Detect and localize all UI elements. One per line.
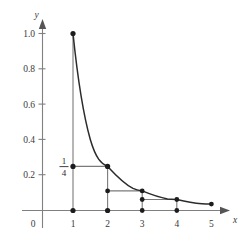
riemann-rectangles — [73, 166, 177, 210]
y-tick-labels: 1.0 0.8 0.6 0.4 0.2 — [23, 29, 35, 180]
y-tick-label-0.8: 0.8 — [23, 64, 35, 74]
x-tick-label-0: 0 — [31, 219, 36, 229]
y-tick-label-0.6: 0.6 — [23, 100, 35, 110]
axis-point-x4 — [174, 208, 179, 213]
x-axis-label: x — [232, 215, 238, 225]
curve-points — [70, 31, 213, 207]
point-x4-y0.0625 — [174, 197, 179, 202]
point-x2-y0.25 — [105, 164, 110, 169]
axis-point-x2 — [105, 208, 110, 213]
y-tick-label-0.2: 0.2 — [23, 170, 35, 180]
y-axis-arrow-icon — [39, 19, 46, 29]
axis-group — [22, 19, 230, 228]
curve-one-over-x-squared — [73, 34, 211, 205]
axis-point-x1 — [70, 208, 75, 213]
y-tick-label-0.4: 0.4 — [23, 135, 35, 145]
x-axis-arrow-icon — [220, 207, 230, 214]
y-tick-label-1.0: 1.0 — [23, 29, 35, 39]
chart-figure: 1.0 0.8 0.6 0.4 0.2 0 1 2 3 4 5 y x — [0, 0, 241, 243]
point-x3-y0.111 — [140, 189, 145, 194]
fraction-numerator: 1 — [62, 156, 67, 166]
x-tick-label-5: 5 — [209, 219, 214, 229]
x-tick-label-2: 2 — [105, 219, 110, 229]
x-tick-label-1: 1 — [71, 219, 76, 229]
x-tick-label-4: 4 — [174, 219, 179, 229]
corner-point-x1-y0.25 — [70, 164, 75, 169]
point-x1-y1 — [70, 31, 75, 36]
x-tick-labels: 0 1 2 3 4 5 — [31, 219, 214, 229]
fraction-denominator: 4 — [62, 168, 67, 178]
quarter-fraction-annotation: 1 4 — [60, 156, 69, 178]
axis-point-x3 — [140, 208, 145, 213]
y-axis-label: y — [33, 10, 39, 20]
corner-point-x3-y0.0625 — [140, 197, 145, 202]
corner-point-x2-y0.111 — [105, 189, 110, 194]
x-tick-label-3: 3 — [140, 219, 145, 229]
point-x5-y0.04 — [209, 202, 214, 207]
riemann-sum-chart: 1.0 0.8 0.6 0.4 0.2 0 1 2 3 4 5 y x — [0, 0, 241, 243]
